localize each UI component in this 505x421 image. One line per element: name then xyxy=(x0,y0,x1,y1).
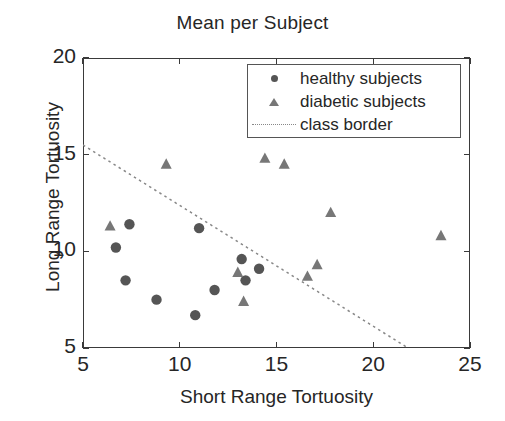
x-tick xyxy=(179,342,180,348)
y-tick-label: 5 xyxy=(24,334,76,358)
legend-label-healthy: healthy subjects xyxy=(300,69,422,89)
x-tick xyxy=(179,58,180,64)
legend: healthy subjects diabetic subjects class… xyxy=(247,64,461,138)
x-tick-label: 10 xyxy=(150,352,210,376)
chart-title: Mean per Subject xyxy=(0,12,505,34)
legend-entry-healthy: healthy subjects xyxy=(248,67,462,90)
legend-entry-class-border: class border xyxy=(248,113,462,136)
y-tick xyxy=(83,347,89,348)
data-point-healthy xyxy=(111,242,121,252)
data-point-healthy xyxy=(194,223,204,233)
x-tick xyxy=(373,342,374,348)
data-point-healthy xyxy=(120,275,130,285)
y-axis-label: Long Range Tortuosity xyxy=(42,52,64,342)
y-tick xyxy=(83,154,89,155)
data-point-diabetic xyxy=(325,207,336,217)
data-point-diabetic xyxy=(302,270,313,280)
y-tick xyxy=(83,251,89,252)
data-point-diabetic xyxy=(238,296,249,306)
x-tick-label: 20 xyxy=(343,352,403,376)
y-tick xyxy=(83,57,89,58)
data-point-healthy xyxy=(209,285,219,295)
x-axis-label: Short Range Tortuosity xyxy=(83,386,470,408)
data-point-diabetic xyxy=(232,267,243,277)
x-tick xyxy=(82,58,83,64)
data-point-healthy xyxy=(254,264,264,274)
y-tick-label: 15 xyxy=(24,141,76,165)
data-point-diabetic xyxy=(312,259,323,269)
legend-label-diabetic: diabetic subjects xyxy=(300,92,426,112)
data-point-diabetic xyxy=(279,158,290,168)
y-tick xyxy=(464,154,470,155)
legend-entry-diabetic: diabetic subjects xyxy=(248,90,462,113)
x-tick-label: 15 xyxy=(247,352,307,376)
healthy-circle-icon xyxy=(248,67,300,90)
data-point-diabetic xyxy=(161,158,172,168)
y-tick xyxy=(464,347,470,348)
legend-label-class-border: class border xyxy=(300,115,393,135)
y-tick xyxy=(464,57,470,58)
y-tick-label: 20 xyxy=(24,44,76,68)
x-tick-label: 25 xyxy=(440,352,500,376)
dotted-line-icon xyxy=(248,113,300,136)
y-tick-label: 10 xyxy=(24,237,76,261)
data-point-healthy xyxy=(151,294,161,304)
y-tick xyxy=(464,251,470,252)
diabetic-triangle-icon xyxy=(248,90,300,113)
data-point-diabetic xyxy=(435,230,446,240)
figure: Mean per Subject Long Range Tortuosity S… xyxy=(0,0,505,421)
x-tick xyxy=(276,342,277,348)
data-point-healthy xyxy=(190,310,200,320)
data-point-healthy xyxy=(124,219,134,229)
data-point-healthy xyxy=(236,254,246,264)
class-border-line xyxy=(83,145,408,348)
data-point-diabetic xyxy=(259,153,270,163)
data-point-diabetic xyxy=(105,220,116,230)
x-tick xyxy=(469,58,470,64)
